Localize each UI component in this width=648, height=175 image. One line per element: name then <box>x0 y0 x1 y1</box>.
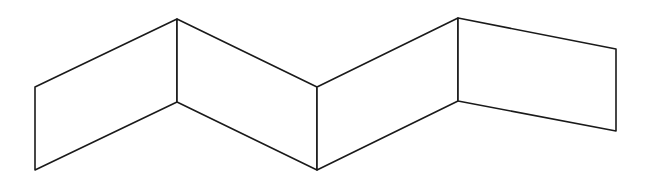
panel-1 <box>35 19 177 170</box>
panels-group <box>35 18 616 170</box>
panel-2 <box>177 19 317 170</box>
panel-4 <box>458 18 616 131</box>
folded-screen-diagram <box>0 0 648 175</box>
panel-3 <box>317 18 458 170</box>
